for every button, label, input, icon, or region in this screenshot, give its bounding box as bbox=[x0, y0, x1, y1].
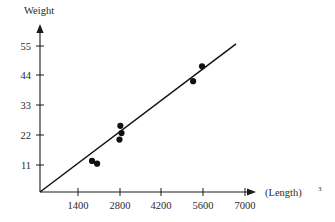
y-tick-label: 22 bbox=[21, 130, 32, 141]
x-tick-label: 5600 bbox=[193, 200, 214, 211]
x-axis-title-exponent: 3 bbox=[318, 185, 322, 193]
scatter-plot-figure: 11 22 33 44 55 1400 2800 4200 5600 7000 … bbox=[0, 0, 335, 222]
x-tick-label: 4200 bbox=[151, 200, 172, 211]
x-tick-label: 2800 bbox=[110, 200, 131, 211]
data-point bbox=[117, 123, 123, 129]
y-axis-title: Weight bbox=[24, 5, 54, 16]
data-point bbox=[190, 78, 196, 84]
y-tick-label: 11 bbox=[21, 160, 31, 171]
y-tick-label: 55 bbox=[21, 41, 32, 52]
data-point bbox=[199, 63, 205, 69]
chart-canvas: 11 22 33 44 55 1400 2800 4200 5600 7000 … bbox=[0, 0, 335, 222]
x-tick-label: 1400 bbox=[68, 200, 89, 211]
data-point bbox=[116, 136, 122, 142]
x-axis-title-base: (Length) bbox=[265, 187, 302, 199]
data-point bbox=[94, 161, 100, 167]
x-tick-label: 7000 bbox=[235, 200, 256, 211]
data-point bbox=[118, 130, 124, 136]
y-tick-label: 33 bbox=[21, 100, 32, 111]
y-tick-label: 44 bbox=[21, 70, 32, 81]
